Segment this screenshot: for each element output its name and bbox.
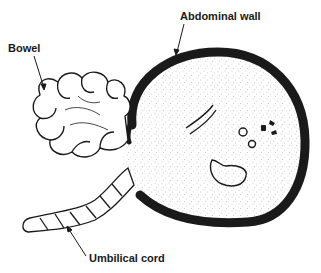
label-umbilical-cord: Umbilical cord bbox=[89, 252, 165, 264]
label-bowel: Bowel bbox=[8, 42, 40, 54]
anatomy-diagram bbox=[0, 0, 321, 273]
bowel bbox=[33, 72, 130, 157]
abdomen bbox=[110, 40, 320, 240]
label-abdominal-wall: Abdominal wall bbox=[180, 10, 261, 22]
umbilical-cord bbox=[23, 168, 134, 232]
